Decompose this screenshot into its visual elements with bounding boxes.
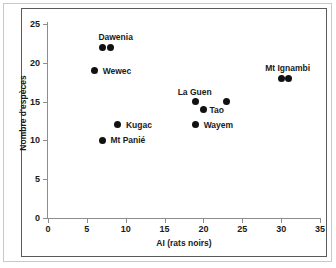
data-point-label: Tao (209, 105, 223, 115)
x-tick-label: 35 (309, 224, 331, 234)
y-tick (43, 140, 47, 141)
data-point (192, 98, 199, 105)
data-point (223, 98, 230, 105)
x-tick (165, 219, 166, 223)
x-tick (320, 219, 321, 223)
data-point (278, 75, 285, 82)
y-tick (43, 218, 47, 219)
x-tick-label: 10 (115, 224, 137, 234)
x-axis-title: AI (rats noirs) (47, 238, 321, 248)
x-tick-label: 15 (154, 224, 176, 234)
x-tick (48, 219, 49, 223)
y-axis-title: Nombre d'espèces (18, 43, 28, 183)
x-tick (87, 219, 88, 223)
x-tick (242, 219, 243, 223)
data-point-label: Wayem (204, 120, 233, 130)
y-tick (43, 24, 47, 25)
y-tick-label: 0 (14, 213, 40, 223)
x-axis-line (47, 218, 321, 219)
scatter-chart-figure: 0510152025 05101520253035 DaweniaWewecMt… (0, 0, 336, 268)
y-tick (43, 63, 47, 64)
x-tick-label: 30 (270, 224, 292, 234)
data-point-label: Dawenia (98, 32, 133, 42)
data-point (91, 67, 98, 74)
data-point-label: Wewec (103, 66, 132, 76)
data-point (285, 75, 292, 82)
x-tick-label: 25 (231, 224, 253, 234)
data-point (107, 44, 114, 51)
data-point-label: La Guen (178, 87, 212, 97)
x-tick (281, 219, 282, 223)
data-point-label: Kugac (126, 120, 152, 130)
data-point (114, 121, 121, 128)
x-tick-label: 20 (192, 224, 214, 234)
y-tick-label: 25 (14, 19, 40, 29)
data-point (200, 106, 207, 113)
data-point (192, 121, 199, 128)
data-point (99, 137, 106, 144)
y-tick (43, 102, 47, 103)
x-tick-label: 5 (76, 224, 98, 234)
y-tick (43, 179, 47, 180)
data-point-label: Mt Panié (110, 135, 145, 145)
y-axis-line (47, 22, 48, 219)
x-tick-label: 0 (37, 224, 59, 234)
x-tick (203, 219, 204, 223)
x-tick (126, 219, 127, 223)
data-point-label: Mt Ignambi (265, 63, 310, 73)
data-point (99, 44, 106, 51)
plot-area: 0510152025 05101520253035 DaweniaWewecMt… (0, 0, 336, 268)
